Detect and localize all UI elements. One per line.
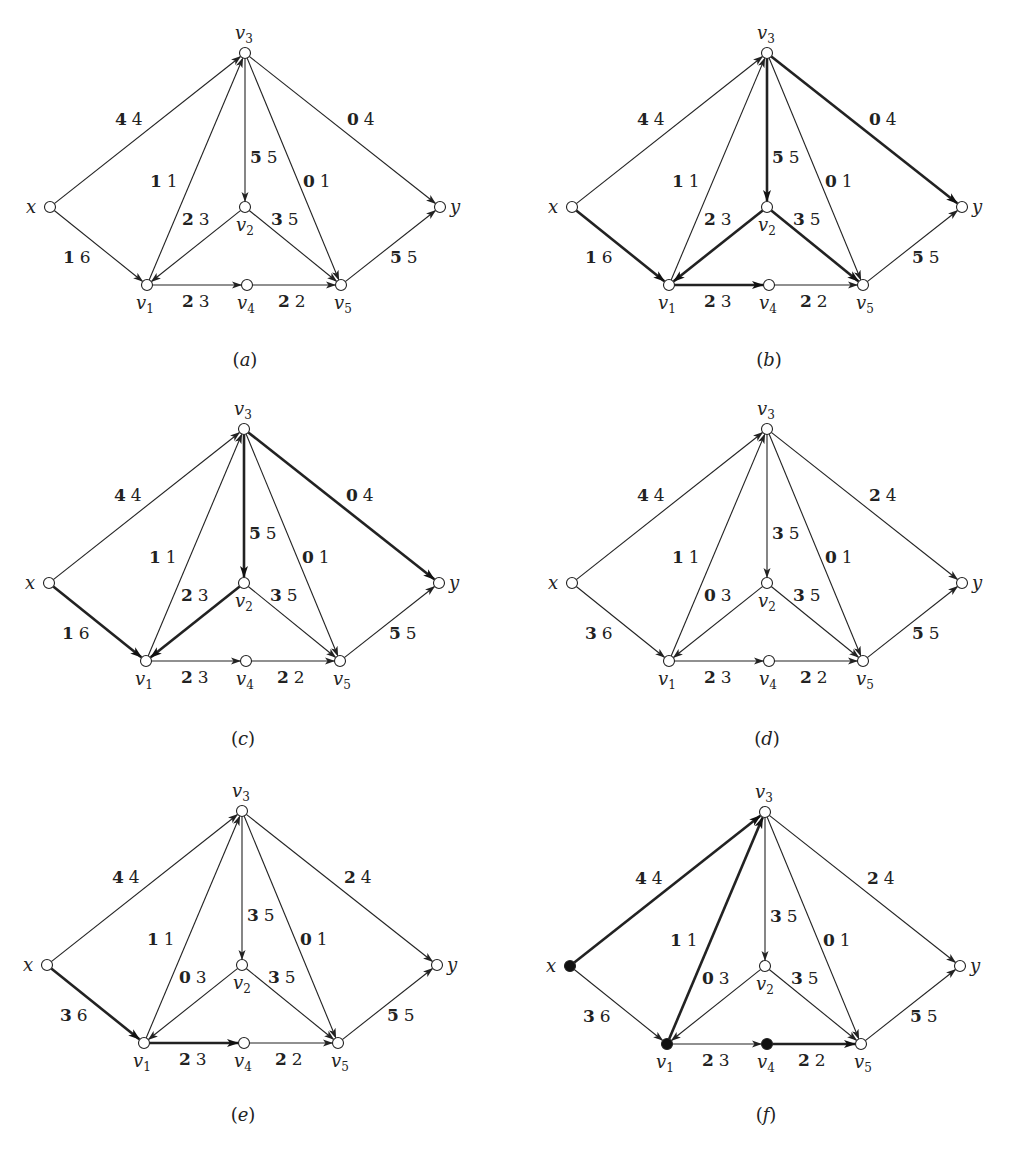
edge-label-x-v3: 44 xyxy=(635,868,663,888)
capacity-value: 5 xyxy=(404,1005,415,1025)
capacity-value: 5 xyxy=(287,585,298,605)
capacity-value: 4 xyxy=(131,485,142,505)
flow-value: 2 xyxy=(182,209,194,229)
capacity-value: 4 xyxy=(361,867,372,887)
flow-value: 2 xyxy=(181,667,193,687)
node-v2 xyxy=(762,578,773,589)
edge-label-v2-v1: 03 xyxy=(702,968,730,988)
edge-label-v4-v5: 22 xyxy=(800,291,828,311)
node-name-v1: v1 xyxy=(656,1051,674,1075)
node-name-v5: v5 xyxy=(331,1050,349,1074)
flow-value: 4 xyxy=(115,109,127,129)
edge-label-v1-v4: 23 xyxy=(182,291,210,311)
edge-label-v3-v5: 01 xyxy=(825,171,853,191)
flow-value: 2 xyxy=(869,485,881,505)
capacity-value: 4 xyxy=(884,868,895,888)
edge-label-v2-v5: 35 xyxy=(271,209,299,229)
node-v5 xyxy=(858,656,869,667)
capacity-value: 1 xyxy=(317,929,328,949)
flow-value: 0 xyxy=(302,547,314,567)
capacity-value: 1 xyxy=(320,171,331,191)
node-name-x: x xyxy=(23,954,33,975)
capacity-value: 4 xyxy=(654,109,665,129)
edge-label-x-v1: 16 xyxy=(585,247,613,267)
flow-value: 4 xyxy=(635,868,647,888)
flow-value: 0 xyxy=(825,547,837,567)
edge-label-v2-v1: 03 xyxy=(704,585,732,605)
node-name-v4: v4 xyxy=(236,668,254,692)
node-v1 xyxy=(139,1038,150,1049)
edge-label-v1-v3: 11 xyxy=(672,547,700,567)
capacity-value: 2 xyxy=(295,291,306,311)
capacity-value: 4 xyxy=(363,485,374,505)
capacity-value: 1 xyxy=(166,547,177,567)
edge-label-v3-y: 04 xyxy=(347,109,375,129)
capacity-value: 5 xyxy=(810,209,821,229)
caption-c: (c) xyxy=(231,728,255,749)
capacity-value: 4 xyxy=(129,867,140,887)
capacity-value: 2 xyxy=(817,667,828,687)
node-name-v3: v3 xyxy=(755,781,773,805)
edge-label-v4-v5: 22 xyxy=(277,667,305,687)
node-name-x: x xyxy=(548,572,558,593)
panels-root: 4416115501042335232255xv3v2yv1v4v5(a)441… xyxy=(23,22,983,1125)
edge-x-v1-highlighted xyxy=(51,968,139,1039)
node-name-v5: v5 xyxy=(333,668,351,692)
capacity-value: 4 xyxy=(886,485,897,505)
flow-value: 3 xyxy=(793,585,805,605)
panel-e: 4436113501240335232255xv3v2yv1v4v5 xyxy=(23,780,458,1074)
node-v4 xyxy=(242,280,253,291)
edge-label-v3-v5: 01 xyxy=(303,171,331,191)
edge-v2-v1 xyxy=(674,586,763,657)
panel-b: 4416115501042335232255xv3v2yv1v4v5 xyxy=(548,22,983,316)
caption-f: (f) xyxy=(756,1104,777,1125)
edge-label-v3-v2: 35 xyxy=(772,523,800,543)
flow-value: 2 xyxy=(704,209,716,229)
edge-label-x-v1: 16 xyxy=(62,623,90,643)
edge-label-x-v1: 36 xyxy=(583,1006,611,1026)
capacity-value: 4 xyxy=(886,109,897,129)
node-v3 xyxy=(760,807,771,818)
caption-a: (a) xyxy=(233,349,258,370)
flow-value: 0 xyxy=(347,109,359,129)
capacity-value: 5 xyxy=(266,523,277,543)
edge-label-v5-y: 55 xyxy=(389,623,417,643)
edge-label-v2-v5: 35 xyxy=(270,585,298,605)
flow-value: 2 xyxy=(798,1050,810,1070)
node-name-v5: v5 xyxy=(854,1051,872,1075)
node-v4 xyxy=(241,656,252,667)
edge-label-x-v3: 44 xyxy=(114,485,142,505)
capacity-value: 4 xyxy=(364,109,375,129)
edge-label-v3-y: 04 xyxy=(869,109,897,129)
flow-value: 1 xyxy=(670,930,682,950)
flow-value: 2 xyxy=(277,667,289,687)
flow-value: 2 xyxy=(181,585,193,605)
flow-value: 0 xyxy=(300,929,312,949)
node-name-y: y xyxy=(449,196,461,217)
flow-value: 5 xyxy=(912,247,924,267)
capacity-value: 1 xyxy=(319,547,330,567)
node-v4 xyxy=(239,1038,250,1049)
capacity-value: 2 xyxy=(815,1050,826,1070)
capacity-value: 3 xyxy=(721,585,732,605)
edge-x-v1-highlighted xyxy=(53,586,141,657)
flow-value: 0 xyxy=(869,109,881,129)
edge-label-x-v3: 44 xyxy=(112,867,140,887)
capacity-value: 5 xyxy=(929,623,940,643)
capacity-value: 5 xyxy=(288,209,299,229)
node-name-v1: v1 xyxy=(658,668,676,692)
flow-value: 4 xyxy=(637,485,649,505)
capacity-value: 3 xyxy=(719,1050,730,1070)
capacity-value: 4 xyxy=(132,109,143,129)
capacity-value: 3 xyxy=(719,968,730,988)
edge-label-v3-v5: 01 xyxy=(302,547,330,567)
flow-value: 3 xyxy=(60,1005,72,1025)
node-name-v3: v3 xyxy=(757,398,775,422)
edge-x-v1 xyxy=(574,969,662,1040)
capacity-value: 3 xyxy=(721,291,732,311)
capacity-value: 5 xyxy=(267,147,278,167)
node-v2 xyxy=(762,202,773,213)
flow-value: 0 xyxy=(179,967,191,987)
flow-value: 3 xyxy=(793,209,805,229)
node-v4 xyxy=(764,656,775,667)
